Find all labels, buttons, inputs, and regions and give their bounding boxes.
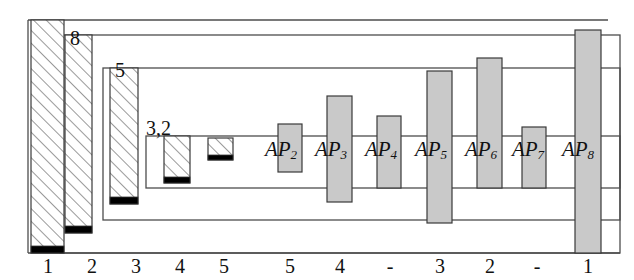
bar-2-body	[65, 35, 92, 233]
bar-3-base	[110, 197, 138, 204]
bar-4-base	[164, 177, 190, 183]
bar-1-base	[31, 246, 64, 253]
bar-1-body	[31, 20, 64, 253]
ap-label-7-text: AP	[512, 137, 538, 161]
ap-label-6: AP6	[465, 139, 497, 162]
ap-label-2-subscript: 2	[291, 147, 298, 162]
bar-ap6	[477, 58, 502, 188]
ap-label-3: AP3	[315, 139, 347, 162]
tick-5: 5	[219, 256, 229, 276]
tick-2: 2	[87, 256, 97, 276]
ap-label-5-subscript: 5	[441, 147, 448, 162]
ap-label-6-text: AP	[465, 137, 491, 161]
tick-11: -	[534, 256, 541, 276]
bar-3-body	[110, 68, 138, 204]
ap-label-2-text: AP	[265, 137, 291, 161]
ap-label-2: AP2	[265, 139, 297, 162]
ap-label-8-subscript: 8	[588, 147, 595, 162]
bar-3	[110, 68, 138, 204]
tick-7: 4	[335, 256, 345, 276]
figure-canvas: 853,2 AP2AP3AP4AP5AP6AP7AP8 1234554-32-1	[0, 0, 634, 280]
tick-10: 2	[485, 256, 495, 276]
ap-label-7: AP7	[512, 139, 544, 162]
bar-1	[31, 20, 64, 253]
tick-4: 4	[175, 256, 185, 276]
bar-5-base	[208, 155, 233, 160]
ap-label-4: AP4	[365, 139, 397, 162]
bar-5	[208, 138, 233, 160]
frame-label-3-2: 3,2	[146, 118, 171, 138]
ap-label-8-text: AP	[562, 137, 588, 161]
ap-label-5-text: AP	[415, 137, 441, 161]
ap-label-4-subscript: 4	[391, 147, 398, 162]
ap-label-3-text: AP	[315, 137, 341, 161]
ap-label-3-subscript: 3	[341, 147, 348, 162]
tick-8: -	[387, 256, 394, 276]
ap-label-7-subscript: 7	[538, 147, 545, 162]
ap-label-8: AP8	[562, 139, 594, 162]
bar-2-base	[65, 226, 92, 233]
tick-6: 5	[285, 256, 295, 276]
tick-12: 1	[583, 256, 593, 276]
ap-label-5: AP5	[415, 139, 447, 162]
tick-1: 1	[43, 256, 53, 276]
bar-4	[164, 136, 190, 183]
frame-label-5: 5	[115, 60, 125, 80]
bar-4-body	[164, 136, 190, 183]
frame-label-8: 8	[70, 28, 80, 48]
ap-label-6-subscript: 6	[491, 147, 498, 162]
bar-2	[65, 35, 92, 233]
tick-3: 3	[131, 256, 141, 276]
ap-label-4-text: AP	[365, 137, 391, 161]
tick-9: 3	[435, 256, 445, 276]
